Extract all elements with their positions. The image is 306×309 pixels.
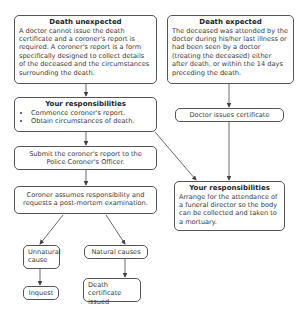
- your-responsibilities-right-title: Your responsibilities: [179, 184, 280, 193]
- responsibility-item: Obtain circumstances of death.: [31, 117, 152, 125]
- your-responsibilities-left-box: Your responsibilities Commence coroner's…: [14, 97, 157, 132]
- unnatural-cause-text: Unnatural cause: [28, 248, 61, 264]
- doctor-issues-certificate-text: Doctor issues certificate: [190, 111, 270, 119]
- responsibility-item: Commence coroner's report.: [31, 109, 152, 117]
- death-certificate-issued-box: Death certificate issued: [83, 278, 141, 302]
- doctor-issues-certificate-box: Doctor issues certificate: [175, 108, 284, 122]
- death-unexpected-text: A doctor cannot issue the death certific…: [19, 27, 152, 77]
- your-responsibilities-right-text: Arrange for the attendance of a funeral …: [179, 193, 280, 227]
- death-unexpected-box: Death unexpected A doctor cannot issue t…: [14, 15, 157, 84]
- your-responsibilities-left-title: Your responsibilities: [19, 100, 152, 109]
- natural-causes-text: Natural causes: [91, 248, 140, 256]
- your-responsibilities-right-box: Your responsibilities Arrange for the at…: [174, 181, 285, 231]
- responsibilities-list: Commence coroner's report. Obtain circum…: [19, 109, 152, 126]
- death-expected-title: Death expected: [172, 18, 289, 27]
- submit-report-text: Submit the coroner's report to the Polic…: [29, 150, 142, 166]
- inquest-text: Inquest: [29, 289, 54, 297]
- unnatural-cause-box: Unnatural cause: [23, 245, 60, 269]
- coroner-assumes-box: Coroner assumes responsibility and reque…: [14, 186, 157, 214]
- coroner-assumes-text: Coroner assumes responsibility and reque…: [23, 191, 148, 207]
- death-unexpected-title: Death unexpected: [19, 18, 152, 27]
- natural-causes-box: Natural causes: [84, 245, 148, 259]
- submit-report-box: Submit the coroner's report to the Polic…: [14, 146, 157, 170]
- death-expected-box: Death expected The deceased was attended…: [167, 15, 294, 84]
- death-expected-text: The deceased was attended by the doctor …: [172, 27, 289, 77]
- inquest-box: Inquest: [23, 286, 59, 300]
